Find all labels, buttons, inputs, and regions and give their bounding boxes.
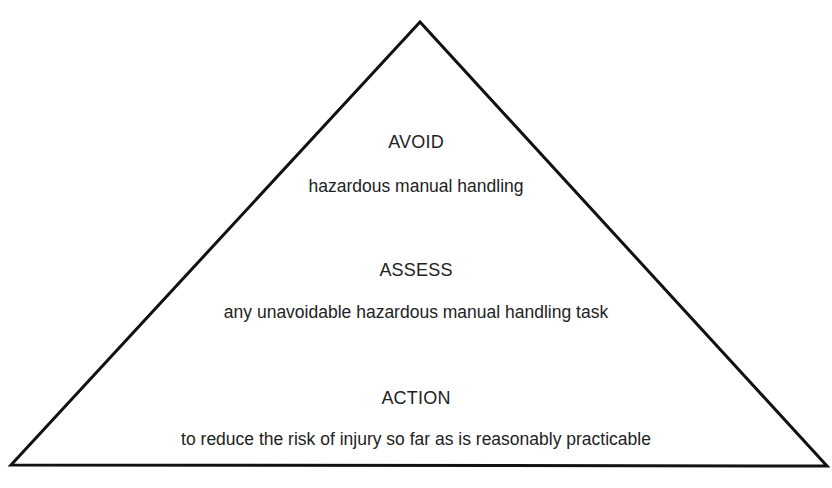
tier-action-heading: ACTION [0,389,832,407]
tier-action-description: to reduce the risk of injury so far as i… [0,431,832,449]
tier-avoid-description: hazardous manual handling [0,178,832,196]
pyramid-diagram [0,0,832,488]
tier-assess-heading: ASSESS [0,261,832,279]
tier-assess-description: any unavoidable hazardous manual handlin… [0,304,832,322]
tier-avoid-heading: AVOID [0,133,832,151]
